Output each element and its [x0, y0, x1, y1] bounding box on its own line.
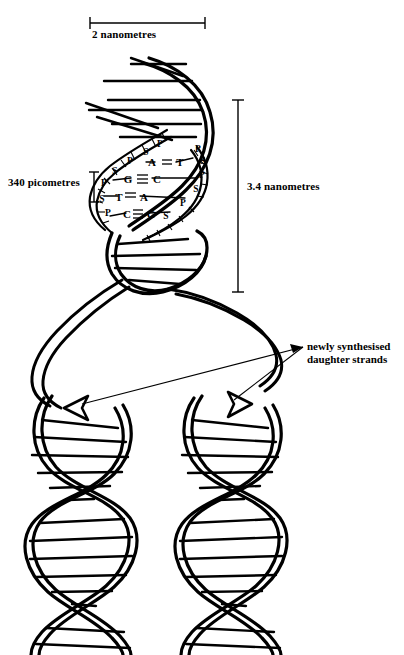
base-label-right-2: A — [140, 191, 148, 203]
base-label-right-1: C — [153, 173, 161, 185]
dna-replication-figure: A T G C T A C G P S P S P S P P — [0, 0, 404, 655]
annotation-line-2: daughter strands — [307, 353, 390, 366]
backbone-label-left-3: S — [112, 166, 117, 176]
daughter-helix-right — [175, 392, 287, 655]
parent-helix-lower — [32, 231, 282, 408]
backbone-label-left-2: P — [127, 156, 133, 166]
base-label-right-3: G — [147, 208, 156, 220]
annotation-leader-lines — [82, 344, 303, 404]
backbone-label-left-1: S — [143, 147, 148, 157]
scale-bar-3.4-nanometres — [232, 100, 244, 292]
dna-diagram-svg: A T G C T A C G P S P S P S P P — [0, 0, 404, 655]
base-label-left-0: A — [148, 156, 156, 168]
backbone-label-right-0: P — [195, 144, 201, 154]
base-label-left-2: T — [115, 191, 123, 203]
backbone-label-right-3: S — [193, 184, 198, 194]
daughter-helix-left — [25, 396, 137, 655]
scale-label-3.4-nanometres: 3.4 nanometres — [247, 180, 320, 192]
backbone-label-left-4: P — [101, 178, 107, 188]
backbone-label-right-5: S — [163, 211, 168, 221]
scale-label-340-picometres: 340 picometres — [8, 176, 80, 188]
base-label-right-0: T — [176, 156, 184, 168]
annotation-line-1: newly synthesised — [307, 340, 390, 353]
backbone-label-right-1: S — [200, 156, 205, 166]
new-strand-tip-left — [64, 396, 88, 420]
backbone-label-right-4: P — [180, 198, 186, 208]
backbone-label-left-5: S — [99, 194, 104, 204]
backbone-label-right-2: P — [199, 170, 205, 180]
backbone-label-left-0: P — [157, 139, 163, 149]
base-label-left-1: G — [124, 173, 133, 185]
scale-label-2-nanometres: 2 nanometres — [92, 28, 156, 40]
annotation-newly-synthesised-daughter-strands: newly synthesised daughter strands — [307, 340, 390, 366]
base-label-left-3: C — [123, 208, 131, 220]
backbone-label-left-6: P — [105, 208, 111, 218]
